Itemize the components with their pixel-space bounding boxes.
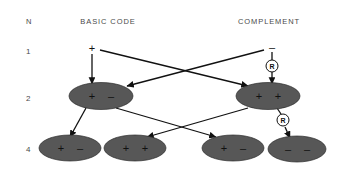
gen2-complement-left-sign: + — [256, 90, 262, 102]
gen4-node-1: + – — [39, 135, 101, 161]
gen4-node-4-right-sign: – — [304, 143, 311, 155]
edge-gen2-basic-to-gen4-node3 — [116, 108, 216, 137]
column-header-complement: COMPLEMENT — [238, 17, 300, 26]
generation-label-2: 2 — [26, 94, 31, 103]
r-marker-upper-label: R — [269, 63, 274, 70]
gen4-node-4-left-sign: – — [285, 143, 292, 155]
gen4-node-3-right-sign: – — [240, 142, 247, 154]
gen2-basic-code-node: + – — [69, 83, 133, 110]
gen4-node-1-right-sign: – — [77, 142, 84, 154]
generation-label-1: 1 — [26, 47, 31, 56]
r-marker-lower-label: R — [280, 117, 285, 124]
column-header-basic-code: BASIC CODE — [80, 17, 135, 26]
gen4-node-2-left-sign: + — [123, 142, 129, 154]
gen4-node-1-left-sign: + — [58, 142, 64, 154]
gen4-node-1-ellipse — [39, 135, 101, 161]
gen2-basic-code-left-sign: + — [89, 90, 95, 102]
gen2-complement-node: + + — [236, 83, 300, 110]
edge-gen2-complement-to-gen4-node2 — [147, 108, 248, 137]
edge-basic-to-complement-gen2 — [100, 50, 248, 86]
generation-label-4: 4 — [26, 145, 31, 154]
gen2-basic-code-ellipse — [69, 83, 133, 110]
replication-diagram-figure: N BASIC CODE COMPLEMENT 1 2 4 + – — [0, 0, 338, 174]
gen4-node-2-right-sign: + — [142, 142, 148, 154]
gen4-node-3: + – — [202, 135, 264, 161]
gen2-complement-right-sign: + — [275, 90, 281, 102]
gen4-node-2-ellipse — [104, 135, 166, 161]
diagram-canvas: N BASIC CODE COMPLEMENT 1 2 4 + – — [0, 0, 338, 174]
gen2-basic-code-right-sign: – — [108, 90, 115, 102]
gen4-node-3-ellipse — [202, 135, 264, 161]
gen2-complement-ellipse — [236, 83, 300, 110]
column-header-n: N — [26, 17, 32, 26]
gen4-node-4: – – — [268, 136, 326, 162]
r-marker-lower: R — [277, 114, 289, 126]
r-marker-upper: R — [266, 60, 278, 72]
gen4-node-2: + + — [104, 135, 166, 161]
gen4-node-3-left-sign: + — [221, 142, 227, 154]
gen4-node-4-ellipse — [268, 136, 326, 162]
edge-gen2-basic-to-gen4-node1 — [70, 108, 86, 137]
gen1-basic-code-symbol: + — [89, 42, 95, 54]
edge-complement-to-basic-gen2 — [127, 50, 264, 86]
gen1-complement-symbol: – — [269, 41, 276, 53]
